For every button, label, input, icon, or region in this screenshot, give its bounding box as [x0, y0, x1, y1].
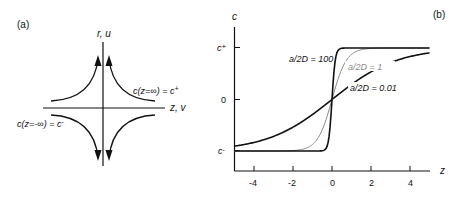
- annotation-c-plus: c(z=∞) = c+: [133, 85, 179, 96]
- arrow-down-icon: [106, 150, 113, 161]
- panel-b: (b) c z c+ 0 c- -4 -2 0 2 4 a/2D =: [217, 9, 445, 188]
- curve-label-0.01: a/2D = 0.01: [350, 83, 397, 93]
- curve-label-1: a/2D = 1: [348, 62, 382, 72]
- x-tick-label: 0: [330, 178, 335, 188]
- panel-a-label: (a): [17, 19, 29, 30]
- x-axis-label: z: [439, 165, 445, 176]
- x-tick-label: 4: [408, 178, 413, 188]
- arrow-down-icon: [95, 150, 102, 161]
- annotation-c-minus: c(z=-∞) = c-: [17, 118, 64, 129]
- arrow-up-icon: [106, 55, 113, 66]
- x-ticks: [254, 166, 410, 171]
- streamline-bottom-right: [109, 115, 155, 158]
- vertical-axis-label: r, u: [97, 28, 111, 39]
- y-tick-label-zero: 0: [221, 95, 226, 105]
- y-tick-label-c-minus: c-: [218, 146, 226, 156]
- streamline-top-left: [51, 58, 98, 101]
- x-tick-label: -2: [288, 178, 296, 188]
- curve-label-100: a/2D = 100: [289, 54, 333, 64]
- horizontal-axis-label: z, v: [169, 102, 187, 113]
- x-tick-label: 2: [369, 178, 374, 188]
- arrow-up-icon: [95, 55, 102, 66]
- y-axis-label: c: [232, 11, 237, 22]
- panel-b-label: (b): [433, 9, 445, 20]
- panel-a: (a) r, u z, v c(z=∞) = c+ c(z=-∞) = c-: [17, 19, 187, 166]
- x-tick-label: -4: [249, 178, 257, 188]
- figure: (a) r, u z, v c(z=∞) = c+ c(z=-∞) = c- (…: [0, 0, 463, 198]
- y-tick-label-c-plus: c+: [217, 42, 227, 53]
